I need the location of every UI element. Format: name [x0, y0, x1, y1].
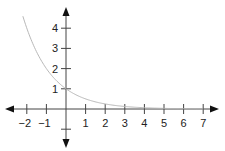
- x-tick-label: 7: [200, 117, 206, 129]
- y-tick-label: 4: [52, 22, 58, 34]
- arrow-right-icon: [210, 106, 219, 113]
- x-tick-label: 2: [102, 117, 108, 129]
- x-tick-labels: −2−11234567: [19, 117, 207, 129]
- y-axis: [61, 7, 71, 148]
- y-tick-label: 3: [52, 42, 58, 54]
- x-tick-label: 6: [181, 117, 187, 129]
- y-tick-label: 2: [52, 63, 58, 75]
- arrow-up-icon: [63, 7, 70, 16]
- function-graph: −2−11234567 1234: [0, 0, 225, 151]
- y-tick-label: 1: [52, 83, 58, 95]
- x-tick-label: 3: [122, 117, 128, 129]
- x-tick-label: −1: [38, 117, 51, 129]
- y-tick-labels: 1234: [52, 22, 58, 95]
- exponential-curve: [23, 16, 203, 109]
- x-tick-label: 1: [83, 117, 89, 129]
- arrow-down-icon: [63, 139, 70, 148]
- arrow-left-icon: [5, 106, 14, 113]
- x-tick-label: 4: [141, 117, 147, 129]
- x-tick-label: 5: [161, 117, 167, 129]
- x-tick-label: −2: [19, 117, 32, 129]
